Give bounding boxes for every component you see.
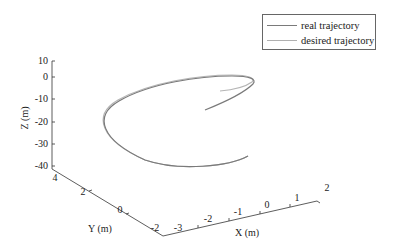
x-tick-label: 1 xyxy=(295,192,300,203)
z-tick-label: 10 xyxy=(38,55,48,66)
legend-item-desired: desired trajectory xyxy=(267,34,374,46)
x-tick-label: 0 xyxy=(265,199,270,210)
x-axis-label: X (m) xyxy=(235,227,259,239)
legend-label: real trajectory xyxy=(301,20,360,31)
legend-label: desired trajectory xyxy=(301,35,374,46)
y-axis-label: Y (m) xyxy=(88,223,112,235)
y-tick-label: 0 xyxy=(118,204,123,215)
y-tick-label: -2 xyxy=(151,222,159,233)
z-axis: 10 0 -10 -20 -30 -40 Z (m) xyxy=(19,55,55,171)
z-tick-label: -40 xyxy=(35,160,48,171)
y-axis: 4 2 0 -2 Y (m) xyxy=(52,169,163,236)
y-tick-label: 4 xyxy=(53,172,58,183)
x-tick-label: -2 xyxy=(204,213,212,224)
desired-trajectory-line xyxy=(103,75,253,167)
x-tick-label: 2 xyxy=(325,182,330,193)
chart-legend: real trajectory desired trajectory xyxy=(262,14,376,50)
z-axis-label: Z (m) xyxy=(19,106,31,129)
x-tick-label: -3 xyxy=(174,222,182,233)
legend-swatch-real xyxy=(267,25,297,26)
z-tick-label: -20 xyxy=(35,116,48,127)
x-tick-label: -1 xyxy=(234,206,242,217)
z-tick-label: -30 xyxy=(35,138,48,149)
z-tick-label: -10 xyxy=(35,93,48,104)
y-tick-label: 2 xyxy=(81,186,86,197)
legend-swatch-desired xyxy=(267,40,297,41)
z-tick-label: 0 xyxy=(43,71,48,82)
x-axis: -3 -2 -1 0 1 2 X (m) xyxy=(163,182,330,239)
legend-item-real: real trajectory xyxy=(267,19,360,31)
trajectory-curves xyxy=(103,75,254,167)
